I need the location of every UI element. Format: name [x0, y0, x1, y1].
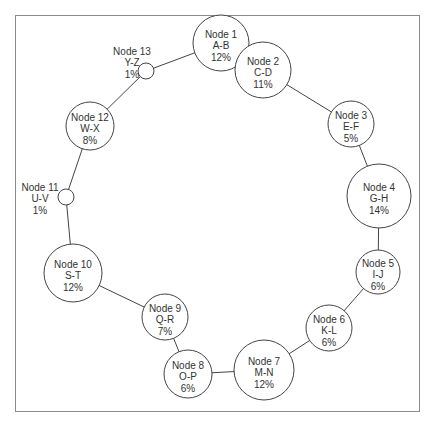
node-10: Node 10S-T12%	[44, 244, 102, 302]
node-range: U-V	[31, 193, 49, 204]
node-share: 12%	[254, 379, 274, 390]
nodes-layer: Node 1A-B12%Node 2C-D11%Node 3E-F5%Node …	[21, 15, 411, 400]
node-range: O-P	[179, 371, 197, 382]
node-range: A-B	[213, 40, 230, 51]
node-share: 6%	[322, 337, 337, 348]
node-share: 5%	[344, 133, 359, 144]
node-range: G-H	[370, 193, 388, 204]
node-9: Node 9Q-R7%	[142, 294, 188, 340]
node-range: I-J	[372, 269, 383, 280]
node-13: Node 13Y-Z1%	[113, 46, 154, 80]
node-12: Node 12W-X8%	[66, 102, 114, 150]
node-share: 12%	[211, 52, 231, 63]
ring-diagram: Node 1A-B12%Node 2C-D11%Node 3E-F5%Node …	[0, 0, 431, 423]
node-name: Node 12	[71, 112, 109, 123]
node-range: K-L	[321, 325, 337, 336]
node-share: 1%	[125, 69, 140, 80]
node-range: Y-Z	[124, 57, 139, 68]
node-range: Q-R	[156, 314, 174, 325]
node-4: Node 4G-H14%	[347, 164, 411, 228]
node-range: S-T	[65, 270, 81, 281]
node-name: Node 11	[21, 182, 59, 193]
node-circle	[138, 63, 154, 79]
node-8: Node 8O-P6%	[164, 350, 212, 398]
node-11: Node 11U-V1%	[21, 182, 74, 216]
node-range: W-X	[80, 123, 100, 134]
node-share: 6%	[181, 383, 196, 394]
node-share: 14%	[369, 205, 389, 216]
node-range: C-D	[254, 67, 272, 78]
node-range: E-F	[343, 121, 359, 132]
node-2: Node 2C-D11%	[235, 42, 291, 98]
node-name: Node 5	[362, 258, 395, 269]
node-name: Node 13	[113, 46, 151, 57]
node-share: 7%	[158, 326, 173, 337]
node-share: 6%	[371, 281, 386, 292]
node-circle	[58, 189, 74, 205]
node-7: Node 7M-N12%	[234, 340, 294, 400]
node-name: Node 10	[54, 259, 92, 270]
node-name: Node 7	[248, 356, 281, 367]
node-share: 8%	[83, 135, 98, 146]
node-name: Node 3	[335, 110, 368, 121]
node-name: Node 8	[172, 360, 205, 371]
node-share: 1%	[33, 205, 48, 216]
node-6: Node 6K-L6%	[306, 305, 352, 351]
node-5: Node 5I-J6%	[356, 250, 400, 294]
node-name: Node 9	[149, 303, 182, 314]
node-name: Node 6	[313, 314, 346, 325]
node-name: Node 2	[247, 56, 280, 67]
node-range: M-N	[255, 367, 274, 378]
node-share: 12%	[63, 282, 83, 293]
node-name: Node 4	[363, 182, 396, 193]
node-name: Node 1	[205, 29, 238, 40]
node-3: Node 3E-F5%	[328, 101, 374, 147]
node-share: 11%	[253, 79, 272, 90]
